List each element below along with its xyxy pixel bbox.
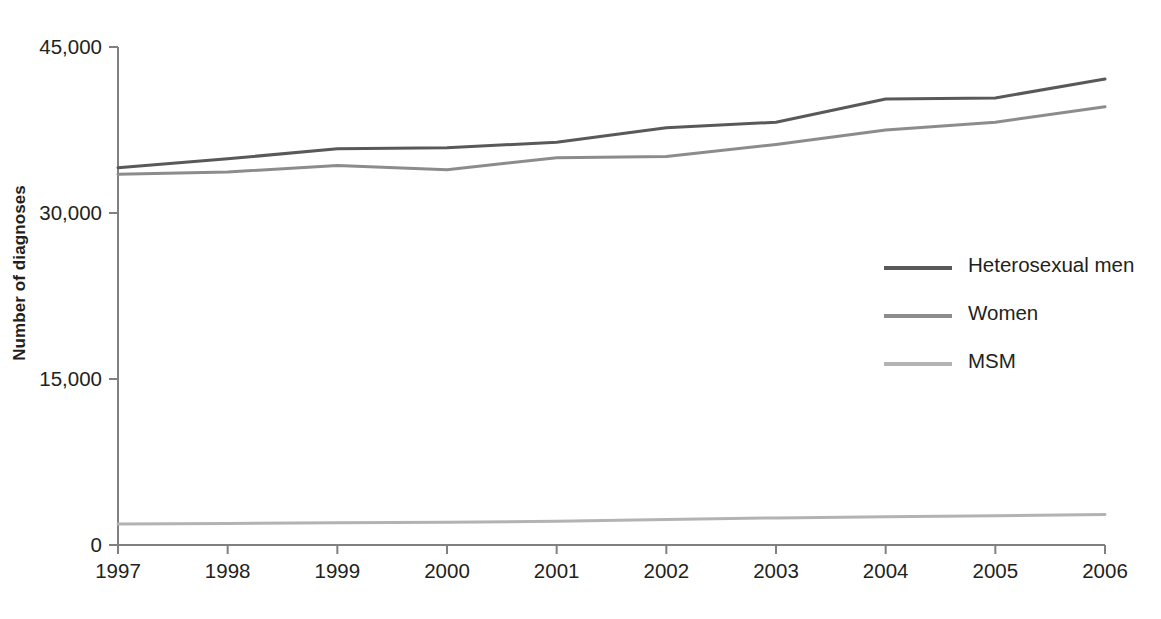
legend-item: MSM (884, 346, 1154, 394)
chart-figure: Number of diagnoses 015,00030,00045,000 … (0, 0, 1161, 619)
legend-item: Heterosexual men (884, 250, 1154, 298)
series-line-heterosexual-men (118, 79, 1105, 168)
legend-item-label: Women (968, 301, 1038, 325)
legend-item-label: Heterosexual men (968, 253, 1134, 277)
legend-swatch-line-icon (884, 266, 952, 270)
legend-item: Women (884, 298, 1154, 346)
series-line-women (118, 107, 1105, 175)
legend-item-label: MSM (968, 349, 1016, 373)
legend: Heterosexual menWomenMSM (884, 250, 1154, 394)
legend-swatch-line-icon (884, 362, 952, 366)
legend-swatch-line-icon (884, 314, 952, 318)
series-line-msm (118, 515, 1105, 524)
